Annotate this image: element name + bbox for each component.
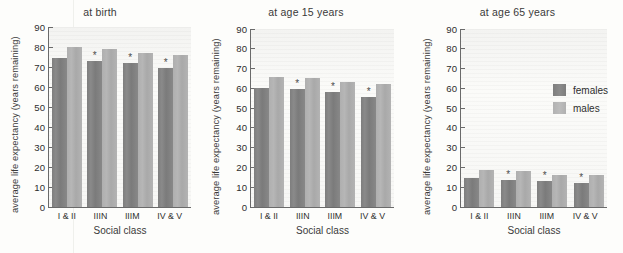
plot-area: 0102030405060708090***I & IIIIINIIIMIV &… [460, 29, 607, 208]
bar-males-i-ii [479, 170, 494, 207]
significance-asterisk: * [367, 88, 371, 96]
x-axis-tick-label: IIIM [328, 207, 343, 221]
bar-group: * [87, 27, 117, 207]
y-axis-tick-label: 60 [236, 83, 251, 94]
y-axis-tick-label: 30 [34, 142, 49, 153]
bar-females-i-ii [254, 88, 269, 207]
significance-asterisk: * [331, 83, 335, 91]
bar-males-iiin [102, 49, 117, 207]
y-axis-tick-label: 40 [236, 122, 251, 133]
y-axis-tick-label: 60 [34, 82, 49, 93]
bar-males-iv-v [376, 84, 391, 207]
bar-females-iv-v: * [158, 68, 173, 207]
y-axis-label: average life expectancy (years remaining… [211, 38, 221, 215]
bar-group: * [574, 29, 604, 207]
bar-males-iiim [552, 175, 567, 207]
legend-item-males: males [553, 99, 608, 117]
bar-group [52, 27, 82, 207]
bar-males-iiim [340, 82, 355, 207]
y-axis-tick-label: 0 [242, 202, 251, 213]
y-axis-tick-label: 70 [236, 63, 251, 74]
bar-group: * [158, 27, 188, 207]
bar-females-iiin: * [87, 61, 102, 207]
bar-group: * [501, 29, 531, 207]
y-axis-tick-label: 50 [34, 102, 49, 113]
x-axis-tick-label: IV & V [157, 207, 182, 221]
x-axis-ticks: I & IIIIINIIIMIV & V [251, 207, 394, 221]
y-axis-tick-label: 90 [34, 22, 49, 33]
y-axis-tick-label: 20 [446, 162, 461, 173]
y-axis-tick-label: 10 [446, 182, 461, 193]
bar-group [464, 29, 494, 207]
chart-title: at age 65 years [412, 6, 623, 18]
x-axis-tick-label: IIIM [539, 207, 554, 221]
bar-females-iiin: * [501, 180, 516, 207]
y-axis-tick-label: 70 [446, 63, 461, 74]
bar-females-i-ii [52, 58, 67, 207]
chart-panel-1: at birthaverage life expectancy (years r… [0, 0, 200, 253]
chart-title: at age 15 years [200, 6, 412, 18]
bar-females-iiim: * [325, 92, 340, 207]
x-axis-title: Social class [251, 225, 394, 236]
bar-groups: *** [461, 29, 607, 207]
bar-males-iiim [138, 53, 153, 207]
plot-area: 0102030405060708090***I & IIIIINIIIMIV &… [48, 27, 191, 208]
y-axis-tick-label: 50 [446, 103, 461, 114]
plot-area: 0102030405060708090***I & IIIIINIIIMIV &… [250, 29, 394, 208]
y-axis-tick-label: 90 [236, 24, 251, 35]
y-axis-label: average life expectancy (years remaining… [10, 36, 20, 213]
x-axis-tick-label: IV & V [360, 207, 385, 221]
bar-group: * [325, 29, 355, 207]
legend-label: males [573, 103, 600, 114]
x-axis-tick-label: I & II [260, 207, 278, 221]
significance-asterisk: * [295, 80, 299, 88]
y-axis-tick-label: 70 [34, 62, 49, 73]
y-axis-label: average life expectancy (years remaining… [422, 38, 432, 215]
y-axis-tick-label: 20 [34, 162, 49, 173]
figure-panels: at birthaverage life expectancy (years r… [0, 0, 623, 253]
significance-asterisk: * [164, 59, 168, 67]
y-axis-tick-label: 0 [40, 202, 49, 213]
y-axis-tick-label: 30 [236, 142, 251, 153]
legend: femalesmales [553, 81, 608, 117]
y-axis-tick-label: 0 [452, 202, 461, 213]
legend-item-females: females [553, 81, 608, 99]
significance-asterisk: * [579, 174, 583, 182]
bar-groups: *** [251, 29, 394, 207]
x-axis-tick-label: IIIM [125, 207, 140, 221]
chart-panel-3: at age 65 yearsaverage life expectancy (… [412, 0, 623, 253]
legend-swatch-females [553, 84, 566, 96]
y-axis-tick-label: 90 [446, 24, 461, 35]
y-axis-tick-label: 50 [236, 103, 251, 114]
bar-males-iv-v [589, 175, 604, 207]
significance-asterisk: * [128, 54, 132, 62]
x-axis-title: Social class [461, 225, 607, 236]
y-axis-tick-label: 10 [236, 182, 251, 193]
y-axis-tick-label: 60 [446, 83, 461, 94]
bar-males-iiin [305, 78, 320, 207]
x-axis-tick-label: IV & V [573, 207, 598, 221]
legend-swatch-males [553, 102, 566, 114]
x-axis-tick-label: IIIN [507, 207, 521, 221]
y-axis-tick-label: 40 [446, 122, 461, 133]
bar-group: * [290, 29, 320, 207]
x-axis-tick-label: I & II [58, 207, 76, 221]
significance-asterisk: * [506, 171, 510, 179]
bar-males-i-ii [67, 47, 82, 207]
legend-label: females [573, 85, 608, 96]
bar-females-i-ii [464, 178, 479, 207]
x-axis-ticks: I & IIIIINIIIMIV & V [49, 207, 191, 221]
y-axis-tick-label: 30 [446, 142, 461, 153]
x-axis-tick-label: IIIN [94, 207, 108, 221]
chart-panel-2: at age 15 yearsaverage life expectancy (… [200, 0, 412, 253]
y-axis-tick-label: 80 [446, 43, 461, 54]
y-axis-tick-label: 40 [34, 122, 49, 133]
x-axis-ticks: I & IIIIINIIIMIV & V [461, 207, 607, 221]
x-axis-tick-label: IIIN [296, 207, 310, 221]
significance-asterisk: * [93, 52, 97, 60]
bar-females-iiim: * [123, 63, 138, 207]
bar-females-iv-v: * [574, 183, 589, 207]
y-axis-tick-label: 20 [236, 162, 251, 173]
bar-males-iiin [516, 171, 531, 207]
x-axis-tick-label: I & II [470, 207, 488, 221]
